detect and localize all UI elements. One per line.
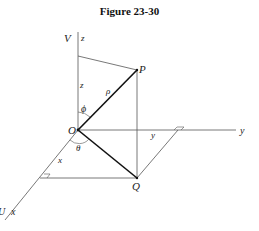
- label-x-axis: x: [10, 206, 16, 217]
- label-z-length: z: [79, 80, 84, 90]
- label-y-length: y: [150, 130, 155, 140]
- right-angle-mark-y: [174, 127, 184, 130]
- label-y-axis: y: [239, 125, 245, 136]
- point-p: [136, 69, 138, 71]
- label-q: Q: [132, 180, 140, 192]
- segment-oq: [78, 130, 137, 178]
- label-z-axis: z: [80, 33, 85, 43]
- x-axis: [5, 130, 78, 220]
- rho-segment-op: [78, 70, 137, 130]
- label-p: P: [138, 63, 146, 75]
- right-angle-mark-x: [44, 174, 50, 178]
- point-q: [136, 177, 138, 179]
- spherical-coordinates-diagram: V z z P ρ ϕ O θ y y x Q U x: [0, 0, 259, 231]
- label-rho: ρ: [105, 86, 111, 96]
- label-theta: θ: [76, 143, 81, 153]
- label-o: O: [68, 124, 76, 136]
- z-to-p-line: [78, 56, 137, 70]
- label-phi: ϕ: [81, 103, 86, 114]
- label-u: U: [0, 206, 6, 217]
- point-o: [77, 129, 80, 132]
- label-v: V: [64, 32, 72, 44]
- label-x-length: x: [57, 155, 62, 165]
- y-projection-line: [137, 130, 178, 178]
